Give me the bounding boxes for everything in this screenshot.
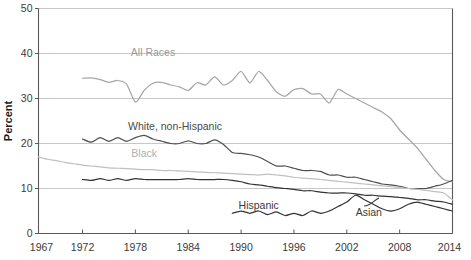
x-tick-label-1978: 1978: [124, 241, 148, 253]
label-all-races: All Races: [131, 46, 175, 58]
label-black: Black: [131, 147, 157, 159]
x-tick-label-1990: 1990: [229, 241, 253, 253]
line-chart: 01020304050 1967197219781984199019962002…: [0, 0, 471, 260]
x-tick-label-2008: 2008: [388, 241, 412, 253]
x-tick-label-2014: 2014: [438, 241, 462, 253]
y-axis-title: Percent: [2, 100, 14, 141]
label-white-non-hispanic: White, non-Hispanic: [128, 120, 222, 132]
y-axis-title-text: Percent: [2, 100, 14, 141]
x-tick-label-2002: 2002: [335, 241, 359, 253]
y-tick-label-40: 40: [21, 47, 33, 59]
y-tick-label-10: 10: [21, 182, 33, 194]
y-axis-tick-labels: 01020304050: [21, 2, 33, 239]
y-tick-label-30: 30: [21, 92, 33, 104]
label-asian: Asian: [356, 206, 382, 218]
chart-canvas: 01020304050 1967197219781984199019962002…: [0, 0, 471, 260]
label-hispanic: Hispanic: [239, 199, 279, 211]
x-tick-label-1996: 1996: [282, 241, 306, 253]
gridlines: [39, 9, 453, 189]
series-inline-labels: All RacesWhite, non-HispanicBlackHispani…: [128, 46, 382, 218]
y-tick-label-20: 20: [21, 137, 33, 149]
y-tick-label-50: 50: [21, 2, 33, 14]
x-tick-label-1984: 1984: [177, 241, 201, 253]
x-axis-tick-labels: 196719721978198419901996200220082014: [30, 241, 462, 253]
y-tick-label-0: 0: [27, 227, 33, 239]
x-tick-label-1967: 1967: [30, 241, 54, 253]
x-tick-label-1972: 1972: [71, 241, 95, 253]
